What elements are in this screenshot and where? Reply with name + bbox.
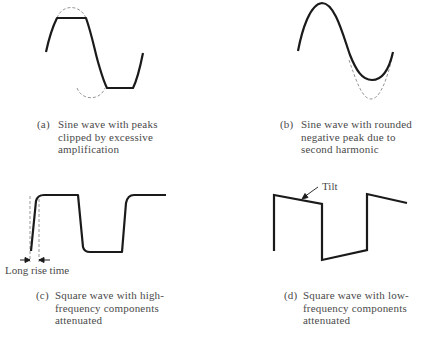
caption-line: Square wave with high- [55,289,164,302]
ideal-sine-dashed [349,54,393,99]
panel-c-waveform [20,195,166,263]
long-rise-time-label: Long rise time [5,264,69,276]
caption-tag: (d) [284,289,297,302]
caption-line: frequency components [55,302,164,315]
caption-b: (b) Sine wave with rounded negative peak… [280,118,424,158]
caption-line: clipped by excessive [58,131,158,144]
caption-tag: (b) [280,118,293,131]
caption-a: (a) Sine wave with peaks clipped by exce… [37,118,187,158]
panel-a-waveform [46,8,143,98]
tilt-label: Tilt [322,180,338,192]
caption-line: Square wave with low- [303,289,409,302]
tilted-square-trace [274,194,407,260]
caption-line: Sine wave with peaks [58,118,158,131]
caption-c: (c) Square wave with high- frequency com… [36,289,186,329]
ideal-sine-dashed [57,8,105,98]
caption-line: frequency components [303,302,409,315]
panel-b-waveform [298,3,393,99]
clipped-sine-trace [46,18,143,88]
caption-line: attenuated [303,314,409,327]
caption-tag: (a) [37,118,50,131]
caption-line: amplification [58,143,158,156]
caption-line: negative peak due to [301,131,412,144]
rounded-square-trace [31,195,166,252]
caption-line: Sine wave with rounded [301,118,412,131]
distorted-sine-trace [298,3,393,80]
tilt-arrow [302,187,318,199]
caption-tag: (c) [36,289,49,302]
caption-d: (d) Square wave with low- frequency comp… [284,289,424,329]
panel-d-waveform [274,187,407,260]
caption-line: attenuated [55,314,164,327]
caption-line: second harmonic [301,143,412,156]
rise-time-arrows [20,258,50,263]
